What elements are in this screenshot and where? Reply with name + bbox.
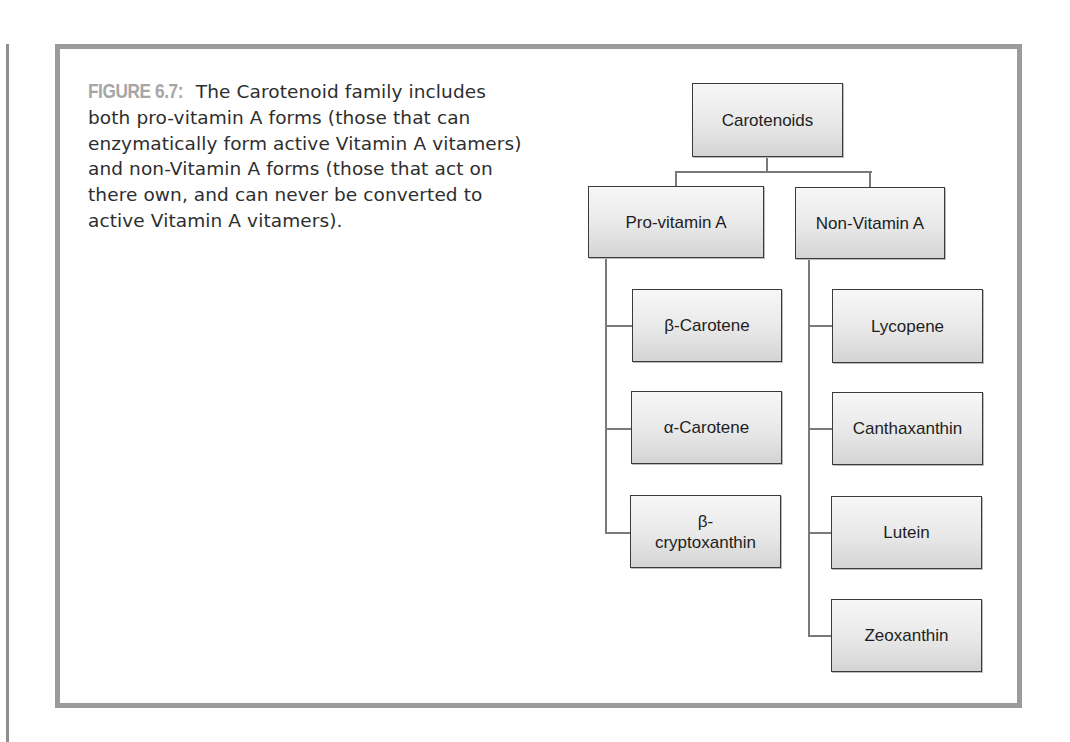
node-alpha-carotene: α-Carotene: [631, 391, 782, 464]
connector-lycopene: [808, 325, 832, 327]
node-beta-carotene: β-Carotene: [632, 289, 782, 362]
node-canthaxanthin: Canthaxanthin: [832, 392, 983, 465]
connector-beta-carotene: [605, 325, 632, 327]
page-margin-rule: [6, 44, 9, 742]
connector-nonvitamin-trunk: [808, 259, 810, 637]
connector-alpha-carotene: [605, 428, 632, 430]
connector-lutein: [808, 532, 831, 534]
figure-caption: FIGURE 6.7: The Carotenoid family includ…: [88, 78, 528, 234]
figure-label: FIGURE 6.7:: [88, 78, 183, 104]
connector-zeoxanthin: [808, 635, 831, 637]
node-pro-vitamin-a: Pro-vitamin A: [588, 186, 764, 258]
node-beta-cryptoxanthin: β- cryptoxanthin: [630, 495, 781, 568]
node-carotenoids: Carotenoids: [692, 83, 843, 157]
connector-to-nonvitamin: [869, 171, 871, 187]
node-non-vitamin-a: Non-Vitamin A: [795, 187, 945, 259]
connector-beta-cryptoxanthin: [605, 532, 631, 534]
connector-root-bar: [675, 171, 872, 173]
node-zeoxanthin: Zeoxanthin: [831, 599, 982, 672]
node-lycopene: Lycopene: [832, 289, 983, 363]
connector-to-provitamin: [675, 171, 677, 187]
node-lutein: Lutein: [831, 496, 982, 569]
connector-provitamin-trunk: [605, 258, 607, 534]
connector-canthaxanthin: [808, 428, 832, 430]
